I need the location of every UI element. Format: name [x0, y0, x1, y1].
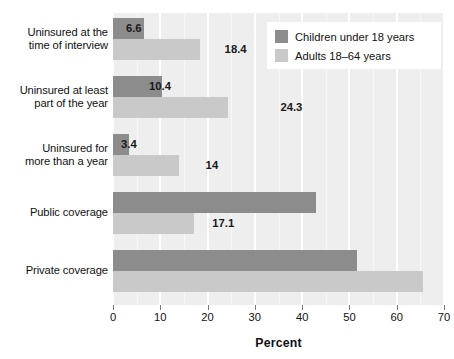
plot-area: 6.618.410.424.33.4144317.151.765.6 Child… [113, 13, 444, 305]
tick-mark [255, 305, 256, 310]
bar-value-label: 14 [158, 155, 223, 176]
category-label: Uninsured at leastpart of the year [0, 84, 108, 111]
bar-value-label: 65.6 [389, 271, 444, 292]
tick-mark [349, 305, 350, 310]
tick-mark [160, 305, 161, 310]
tick-label: 20 [201, 311, 213, 323]
category-label-line: more than a year [0, 155, 108, 169]
tick-mark [397, 305, 398, 310]
bar-value-label: 24.3 [194, 97, 308, 118]
legend-item-children: Children under 18 years [267, 26, 441, 45]
legend-item-adults: Adults 18–64 years [267, 45, 441, 64]
category-label-line: Uninsured for [0, 142, 108, 156]
category-label-line: Uninsured at least [0, 84, 108, 98]
tick-label: 50 [343, 311, 355, 323]
bar [113, 250, 357, 271]
chart-legend: Children under 18 years Adults 18–64 yea… [267, 22, 441, 69]
legend-swatch-icon-children [275, 30, 288, 43]
tick-mark [113, 305, 114, 310]
bar-value-label: 51.7 [323, 250, 444, 271]
x-axis-ticks: 010203040506070 [113, 305, 444, 312]
bar-value-label: 18.4 [166, 39, 252, 60]
tick-label: 40 [296, 311, 308, 323]
tick-label: 10 [154, 311, 166, 323]
category-label-line: Public coverage [0, 206, 108, 220]
tick-label: 30 [249, 311, 261, 323]
category-label: Public coverage [0, 206, 108, 220]
category-label: Uninsured formore than a year [0, 142, 108, 169]
x-axis-title: Percent [113, 336, 444, 350]
category-label-line: Uninsured at the [0, 26, 108, 40]
tick-label: 70 [438, 311, 450, 323]
category-label-line: time of interview [0, 39, 108, 53]
tick-mark [208, 305, 209, 310]
legend-label-adults: Adults 18–64 years [295, 50, 391, 62]
tick-label: 0 [110, 311, 116, 323]
category-label-line: part of the year [0, 97, 108, 111]
category-axis-labels: Uninsured at thetime of interviewUninsur… [0, 13, 108, 305]
category-label: Private coverage [0, 264, 108, 278]
bar-chart: Uninsured at thetime of interviewUninsur… [0, 0, 454, 359]
bar [113, 192, 316, 213]
bar-value-label: 43 [295, 192, 444, 213]
category-label-line: Private coverage [0, 264, 108, 278]
legend-swatch-icon-adults [275, 49, 288, 62]
bar-value-label: 17.1 [159, 213, 239, 234]
category-label: Uninsured at thetime of interview [0, 26, 108, 53]
legend-label-children: Children under 18 years [295, 31, 414, 43]
bar-value-label: 3.4 [114, 134, 142, 155]
bar-value-label: 6.6 [116, 18, 146, 39]
bar [113, 271, 423, 292]
bar-value-label: 10.4 [128, 76, 176, 97]
tick-mark [302, 305, 303, 310]
tick-mark [444, 305, 445, 310]
tick-label: 60 [390, 311, 402, 323]
